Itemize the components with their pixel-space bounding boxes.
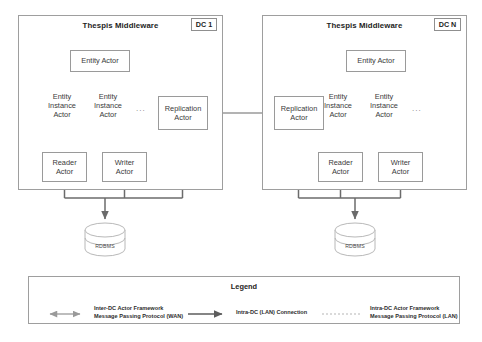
legend-entry-intra-dc-actor-lan: Intra-DC Actor Framework Message Passing… [320,302,470,322]
dc1-entity-instance-actor-1[interactable]: Entity Instance Actor [38,92,86,119]
actor-protocol-dotted-icon [320,306,364,318]
legend-title: Legend [28,282,460,291]
dcn-writer-actor[interactable]: Writer Actor [378,152,423,182]
dc1-entity-instance-ellipsis: ... [136,104,146,113]
legend-entry-inter-dc-wan: Inter-DC Actor Framework Message Passing… [44,302,194,322]
dc1-database[interactable]: RDBMS [85,223,125,257]
dcn-entity-actor-label: Entity Actor [357,57,394,65]
wan-double-arrow-icon [44,306,88,318]
dcn-tag: DC N [434,18,461,31]
dcn-entity-instance-actor-2[interactable]: Entity Instance Actor [360,92,408,119]
dc1-database-label: RDBMS [85,243,125,249]
dc1-replication-actor[interactable]: Replication Actor [158,96,208,130]
dc1-tag: DC 1 [191,18,217,31]
dc1-entity-actor-label: Entity Actor [81,57,118,65]
lan-arrow-icon [186,306,230,318]
legend-label-intra-dc-actor-lan: Intra-DC Actor Framework Message Passing… [370,304,458,320]
dcn-replication-actor[interactable]: Replication Actor [274,96,324,130]
dc1-reader-actor[interactable]: Reader Actor [42,152,87,182]
diagram-canvas: Thespis Middleware DC 1 Entity Actor Ent… [0,0,482,342]
dcn-database[interactable]: RDBMS [335,223,375,257]
dcn-entity-actor[interactable]: Entity Actor [346,50,406,72]
dcn-database-label: RDBMS [335,243,375,249]
dcn-reader-actor[interactable]: Reader Actor [318,152,363,182]
legend-entry-intra-dc-lan: Intra-DC (LAN) Connection [186,305,321,319]
legend-label-inter-dc-wan: Inter-DC Actor Framework Message Passing… [94,304,183,320]
dc1-entity-actor[interactable]: Entity Actor [70,50,130,72]
dcn-entity-instance-ellipsis: ... [412,104,422,113]
dc1-entity-instance-actor-2[interactable]: Entity Instance Actor [84,92,132,119]
legend-label-intra-dc-lan: Intra-DC (LAN) Connection [236,308,307,316]
dc1-writer-actor[interactable]: Writer Actor [102,152,147,182]
